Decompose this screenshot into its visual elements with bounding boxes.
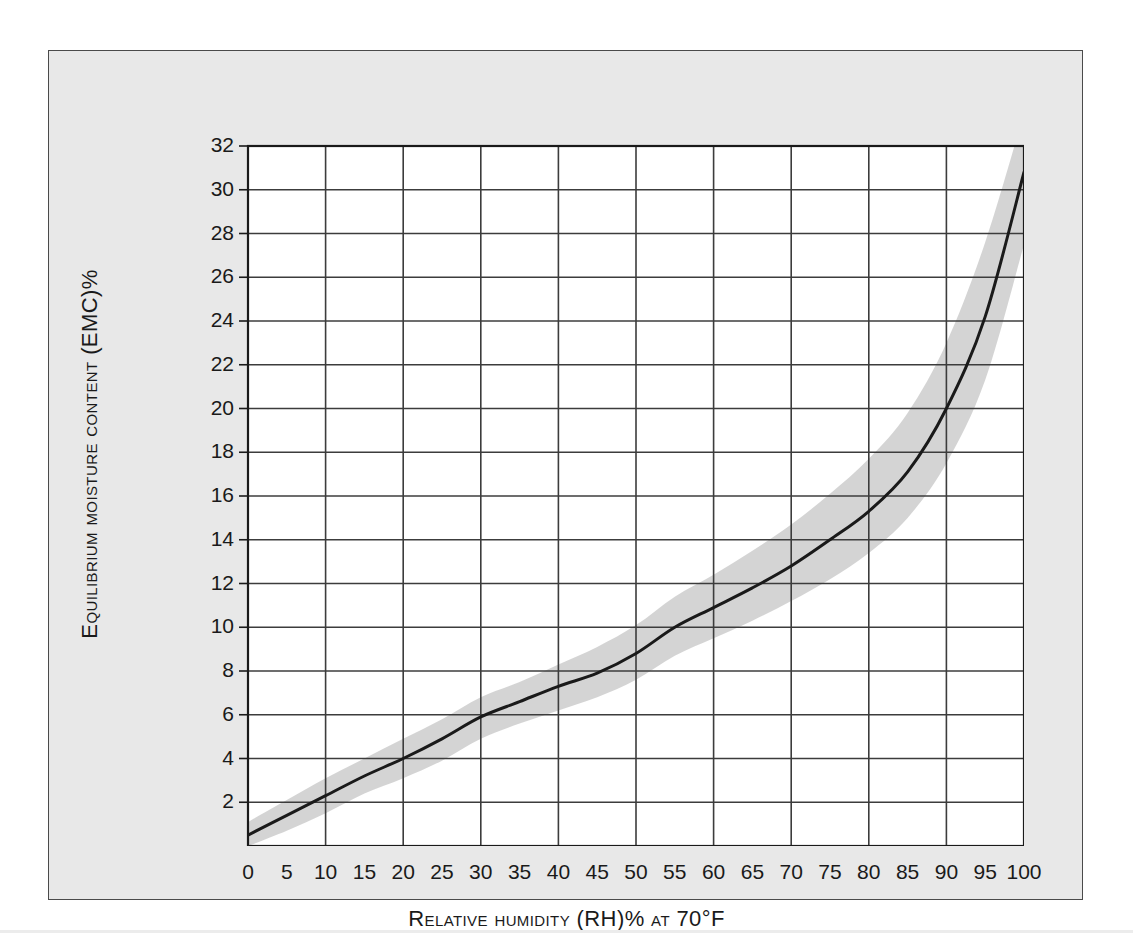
- y-tick-label: 8: [158, 658, 234, 682]
- y-tick-label: 4: [158, 746, 234, 770]
- y-tick-label: 30: [158, 177, 234, 201]
- y-tick-label: 10: [158, 614, 234, 638]
- y-tick-label: 6: [158, 702, 234, 726]
- y-tick-label: 24: [158, 308, 234, 332]
- y-tick-label: 14: [158, 527, 234, 551]
- y-tick-label: 2: [158, 789, 234, 813]
- chart-figure-panel: Equilibrium moisture content (EMC)% 2468…: [48, 50, 1083, 900]
- bottom-divider: [0, 930, 1133, 933]
- x-tick-label: 100: [994, 860, 1054, 884]
- y-axis-title: Equilibrium moisture content (EMC)%: [77, 104, 103, 804]
- y-tick-label: 12: [158, 571, 234, 595]
- y-tick-label: 16: [158, 483, 234, 507]
- y-tick-label: 22: [158, 352, 234, 376]
- y-tick-label: 32: [158, 133, 234, 157]
- y-tick-label: 20: [158, 396, 234, 420]
- y-tick-label: 26: [158, 264, 234, 288]
- y-tick-label: 28: [158, 221, 234, 245]
- chart-canvas: [200, 96, 1024, 846]
- x-axis-title: Relative humidity (RH)% at 70°F: [49, 906, 1084, 932]
- plot-area: 2468101214161820222426283032 05101520253…: [200, 96, 1024, 846]
- y-tick-label: 18: [158, 439, 234, 463]
